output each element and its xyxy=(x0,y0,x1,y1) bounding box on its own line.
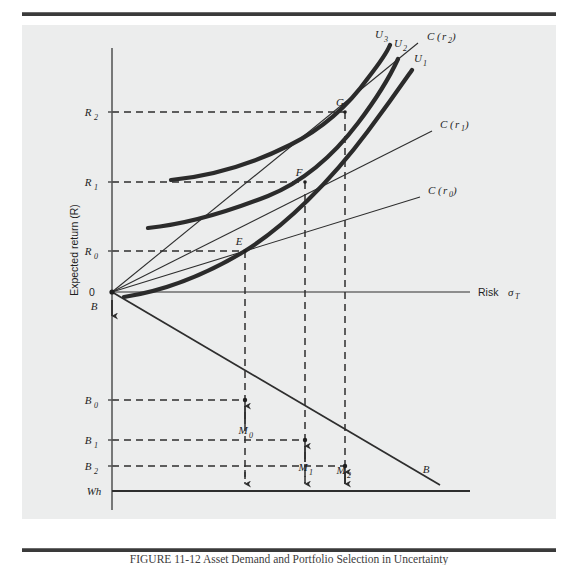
ylabel-b0: B xyxy=(85,394,92,406)
origin-dot xyxy=(109,289,114,294)
indifference-curve-u1 xyxy=(124,70,412,297)
curve-label-u1-sub: 1 xyxy=(423,59,427,68)
ylabel-b1-sub: 1 xyxy=(94,441,98,450)
curve-label-cr2-arg: r xyxy=(442,30,447,42)
x-axis-symbol-sub: T xyxy=(515,292,520,301)
curve-label-cr1-arg: r xyxy=(455,118,460,130)
point-label-e: E xyxy=(235,235,243,247)
point-label-m0: M xyxy=(237,424,248,436)
ylabel-r0: R xyxy=(84,245,92,257)
curve-label-cr1: C xyxy=(440,118,448,130)
ylabel-b0-sub: 0 xyxy=(94,401,98,410)
point-b1-dot xyxy=(303,438,307,442)
ylabel-b2-sub: 2 xyxy=(94,467,98,476)
curve-label-u2: U xyxy=(394,37,403,49)
x-axis-title: Risk xyxy=(478,286,499,298)
ylabel-b1: B xyxy=(85,434,92,446)
point-label-m1: M xyxy=(297,461,308,473)
curve-label-cr0-arg: r xyxy=(443,184,448,196)
curve-label-u3-sub: 3 xyxy=(383,35,388,44)
point-e-dot xyxy=(243,249,247,253)
point-label-m2-sub: 2 xyxy=(347,471,351,480)
point-label-m2: M xyxy=(335,464,346,476)
x-axis-symbol: σ xyxy=(508,286,514,298)
point-g-dot xyxy=(343,110,347,114)
ylabel-borrow-b: B xyxy=(91,300,98,312)
point-label-f: F xyxy=(295,166,303,178)
budget-line-label-b: B xyxy=(423,463,430,475)
ylabel-b2: B xyxy=(85,460,92,472)
point-label-g: G xyxy=(336,96,344,108)
curve-label-cr1-paren-close: ) xyxy=(464,118,469,131)
opportunity-line-r0 xyxy=(112,197,420,292)
figure-caption: FIGURE 11-12 Asset Demand and Portfolio … xyxy=(22,553,556,565)
curve-label-cr2: C xyxy=(427,30,435,42)
ylabel-wh: Wh xyxy=(87,485,102,497)
opportunity-line-r2 xyxy=(112,43,418,292)
point-b0-dot xyxy=(243,398,247,402)
curve-label-cr0: C xyxy=(428,184,436,196)
curve-label-u3: U xyxy=(375,28,384,40)
bottom-rule xyxy=(22,548,556,552)
curve-label-u1: U xyxy=(414,52,423,64)
borrowing-budget-line xyxy=(112,292,440,485)
ylabel-r1-sub: 1 xyxy=(94,183,98,192)
point-label-m0-sub: 0 xyxy=(249,431,253,440)
ylabel-origin: 0 xyxy=(89,286,95,298)
ylabel-r1: R xyxy=(84,176,92,188)
ylabel-r2: R xyxy=(84,106,92,118)
ylabel-r2-sub: 2 xyxy=(94,113,98,122)
curve-label-cr2-paren-close: ) xyxy=(451,30,456,43)
curve-label-u2-sub: 2 xyxy=(403,44,407,53)
point-label-m1-sub: 1 xyxy=(309,468,313,477)
point-f-dot xyxy=(303,180,307,184)
curve-label-cr0-paren-close: ) xyxy=(452,184,457,197)
y-axis-title: Expected return (R) xyxy=(68,204,80,296)
ylabel-r0-sub: 0 xyxy=(94,252,98,261)
